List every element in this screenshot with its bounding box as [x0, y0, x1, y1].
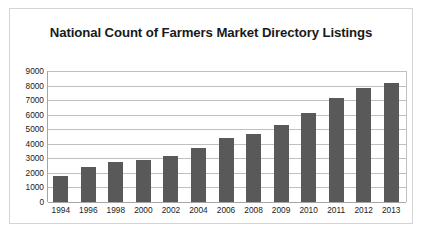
bar-2004 — [191, 148, 206, 202]
bar-2009 — [274, 125, 289, 202]
bar-2008 — [246, 134, 261, 202]
bar-2000 — [136, 160, 151, 202]
chart-title: National Count of Farmers Market Directo… — [10, 25, 412, 40]
bar-2002 — [163, 156, 178, 202]
y-tick-label: 0 — [10, 197, 44, 207]
y-tick-label: 8000 — [10, 81, 44, 91]
bar-2006 — [219, 138, 234, 202]
gridline — [48, 202, 406, 203]
y-tick-label: 2000 — [10, 168, 44, 178]
bar-2011 — [329, 98, 344, 202]
y-tick-label: 9000 — [10, 66, 44, 76]
x-axis: 1994199619982000200220042006200820092010… — [47, 205, 405, 221]
bar-2013 — [384, 83, 399, 202]
chart-frame: National Count of Farmers Market Directo… — [9, 8, 413, 224]
bar-2010 — [301, 113, 316, 202]
bar-1998 — [108, 162, 123, 202]
y-tick-label: 1000 — [10, 182, 44, 192]
bar-1996 — [81, 167, 96, 202]
y-tick-label: 4000 — [10, 139, 44, 149]
y-axis: 9000800070006000500040003000200010000 — [10, 71, 44, 202]
x-tick-label: 2013 — [374, 205, 408, 215]
bar-1994 — [53, 176, 68, 202]
y-tick-label: 6000 — [10, 110, 44, 120]
y-tick-label: 7000 — [10, 95, 44, 105]
bar-2012 — [356, 88, 371, 202]
y-tick-label: 3000 — [10, 153, 44, 163]
bars-layer — [47, 71, 405, 202]
y-tick-label: 5000 — [10, 124, 44, 134]
